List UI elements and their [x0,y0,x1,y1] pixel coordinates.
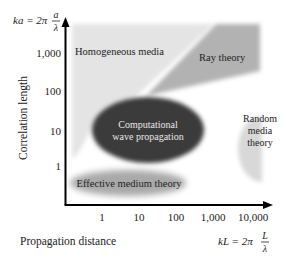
x-tick-label: 100 [168,211,185,223]
label-ray-theory: Ray theory [199,52,246,63]
y-axis-title: Correlation length [17,76,30,160]
label-random-1: Random [243,113,277,124]
x-axis-arrow-icon [263,201,273,209]
label-effective-medium: Effective medium theory [77,178,183,189]
y-axis-arrow-icon [62,17,70,27]
label-homogeneous: Homogeneous media [75,46,164,57]
x-tick-label: 10 [134,211,146,223]
x-tick-label: 1,000 [201,211,226,223]
y-tick-labels: 1 10 100 1,000 [36,47,61,172]
x-formula-numerator: L [261,230,268,241]
x-formula-lhs: kL = 2π [218,235,253,247]
y-tick-label: 1,000 [36,47,61,59]
label-random-3: theory [247,137,273,148]
label-computational-2: wave propagation [112,131,183,142]
x-tick-labels: 1 10 100 1,000 10,000 [99,211,268,223]
region-computational [92,97,204,163]
y-tick-label: 10 [50,125,62,137]
y-formula-denominator: λ [53,22,59,33]
y-tick-label: 100 [45,85,62,97]
label-computational-1: Computational [118,119,178,130]
label-random-2: media [248,125,273,136]
x-formula-denominator: λ [262,243,268,254]
y-formula-numerator: a [54,9,59,20]
x-tick-label: 10,000 [238,211,269,223]
y-tick-label: 1 [56,160,62,172]
x-axis-title: Propagation distance [20,235,116,248]
y-formula-lhs: ka = 2π [13,14,48,26]
wave-regime-diagram: Homogeneous media Ray theory Computation… [0,0,283,267]
x-tick-label: 1 [99,211,105,223]
y-axis-formula: ka = 2π a λ [13,9,60,33]
x-axis-formula: kL = 2π L λ [218,230,269,254]
